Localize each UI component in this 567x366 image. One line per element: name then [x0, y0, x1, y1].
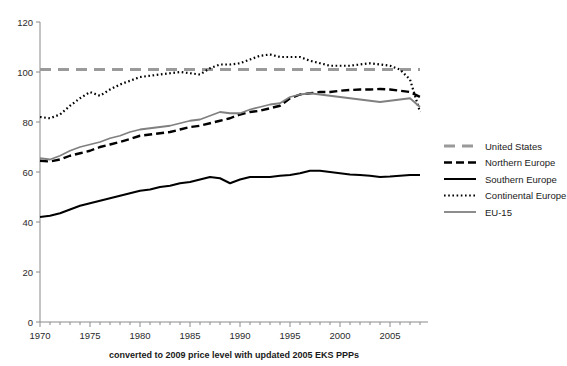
legend-label: Continental Europe [485, 190, 566, 201]
chart-container: 1201008060402001970197519801985199019952… [0, 0, 567, 366]
x-tick-label: 1995 [279, 330, 300, 341]
x-tick-label: 1980 [129, 330, 150, 341]
series-layer [40, 55, 420, 218]
legend-label: United States [485, 141, 542, 152]
legend-label: Northern Europe [485, 157, 555, 168]
x-tick-label: 2000 [329, 330, 350, 341]
series-line-eu-15 [40, 93, 420, 159]
legend-item-continental-europe[interactable]: Continental Europe [444, 190, 566, 201]
y-tick-label: 60 [22, 167, 33, 178]
x-tick-label: 2005 [379, 330, 400, 341]
y-tick-label: 0 [28, 317, 33, 328]
x-axis-caption: converted to 2009 price level with updat… [109, 350, 359, 360]
legend-item-southern-europe[interactable]: Southern Europe [444, 174, 557, 185]
legend-item-northern-europe[interactable]: Northern Europe [444, 157, 555, 168]
series-line-southern-europe [40, 171, 420, 217]
legend-item-united-states[interactable]: United States [444, 141, 542, 152]
y-tick-label: 20 [22, 267, 33, 278]
y-tick-label: 100 [17, 67, 33, 78]
legend-label: EU-15 [485, 207, 512, 218]
x-tick-label: 1970 [29, 330, 50, 341]
line-chart: 1201008060402001970197519801985199019952… [0, 0, 567, 366]
legend-label: Southern Europe [485, 174, 557, 185]
y-tick-label: 120 [17, 17, 33, 28]
y-tick-label: 80 [22, 117, 33, 128]
x-tick-label: 1975 [79, 330, 100, 341]
x-axis-caption-text: converted to 2009 price level with updat… [109, 350, 359, 360]
x-tick-label: 1985 [179, 330, 200, 341]
x-tick-label: 1990 [229, 330, 250, 341]
chart-legend: United StatesNorthern EuropeSouthern Eur… [444, 141, 566, 218]
legend-item-eu-15[interactable]: EU-15 [444, 207, 512, 218]
y-tick-label: 40 [22, 217, 33, 228]
series-line-continental-europe [40, 55, 420, 119]
